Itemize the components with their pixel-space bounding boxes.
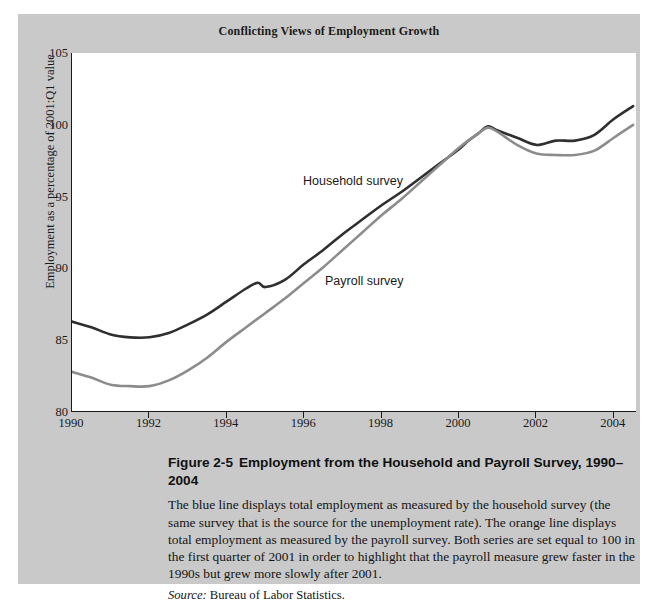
caption-heading: Figure 2-5Employment from the Household … [168, 454, 638, 489]
x-tick-label: 2004 [583, 416, 643, 431]
series-line-household [72, 106, 633, 338]
caption-source-label: Source: [168, 588, 207, 602]
x-tick-label: 2000 [428, 416, 488, 431]
x-tick-label: 1996 [273, 416, 333, 431]
caption-body: The blue line displays total employment … [168, 496, 638, 582]
plot-area [71, 53, 636, 412]
y-tick-label: 100 [34, 117, 68, 132]
x-axis-tick-labels: 19901992199419961998200020022004 [71, 416, 636, 436]
x-tick-label: 1998 [351, 416, 411, 431]
x-tick-label: 2002 [505, 416, 565, 431]
y-tick-label: 85 [34, 333, 68, 348]
x-tick-label: 1990 [41, 416, 101, 431]
y-axis-tick-labels: 80859095100105 [26, 53, 68, 412]
chart-lines-svg [72, 53, 637, 412]
caption-title: Employment from the Household and Payrol… [168, 455, 623, 488]
y-tick-label: 105 [34, 46, 68, 61]
caption-source-text: Bureau of Labor Statistics. [210, 588, 345, 602]
x-tick-label: 1994 [196, 416, 256, 431]
series-annotation-household: Household survey [303, 174, 403, 188]
x-tick-label: 1992 [118, 416, 178, 431]
series-line-payroll [72, 125, 633, 387]
caption-block: Figure 2-5Employment from the Household … [168, 454, 638, 603]
y-tick-label: 95 [34, 189, 68, 204]
figure-panel: Conflicting Views of Employment Growth E… [18, 14, 640, 584]
chart-title: Conflicting Views of Employment Growth [18, 24, 640, 39]
series-annotation-payroll: Payroll survey [325, 274, 404, 288]
caption-source: Source: Bureau of Labor Statistics. [168, 588, 638, 603]
y-tick-label: 90 [34, 261, 68, 276]
caption-figure-number: Figure 2-5 [168, 455, 233, 470]
